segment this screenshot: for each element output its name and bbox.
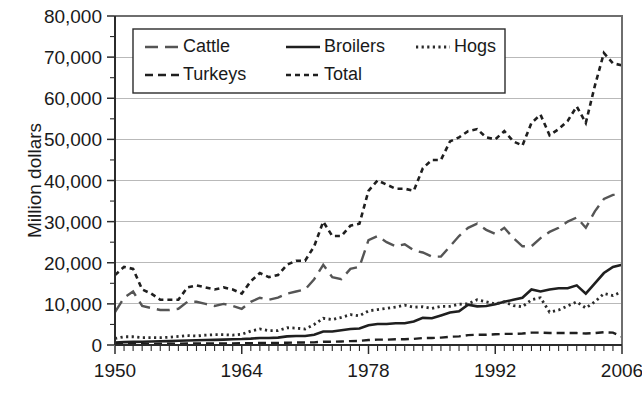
x-tick-label: 1978 <box>347 360 389 381</box>
x-tick-label: 2006 <box>601 360 642 381</box>
x-tick-label: 1992 <box>474 360 516 381</box>
y-tick-label: 50,000 <box>44 129 102 150</box>
legend-label-hogs: Hogs <box>454 36 496 56</box>
legend-label-total: Total <box>324 64 362 84</box>
chart-legend: CattleBroilersHogsTurkeysTotal <box>133 29 505 93</box>
line-chart: 010,00020,00030,00040,00050,00060,00070,… <box>0 0 642 397</box>
x-tick-label: 1950 <box>94 360 136 381</box>
y-axis-ticks <box>107 16 115 345</box>
legend-label-cattle: Cattle <box>183 36 230 56</box>
x-axis-ticks <box>115 345 622 354</box>
y-tick-label: 70,000 <box>44 47 102 68</box>
data-series-group <box>115 53 622 344</box>
series-line-cattle <box>115 195 622 312</box>
x-tick-label: 1964 <box>221 360 264 381</box>
y-tick-label: 80,000 <box>44 6 102 27</box>
chart-figure: 010,00020,00030,00040,00050,00060,00070,… <box>0 0 642 397</box>
y-tick-label: 20,000 <box>44 253 102 274</box>
series-line-hogs <box>115 292 622 339</box>
y-tick-label: 0 <box>91 335 102 356</box>
legend-label-broilers: Broilers <box>324 36 385 56</box>
x-axis-tick-labels: 19501964197819922006 <box>94 360 642 381</box>
y-tick-label: 30,000 <box>44 212 102 233</box>
y-axis-title: Million dollars <box>24 123 45 238</box>
y-tick-label: 60,000 <box>44 88 102 109</box>
legend-label-turkeys: Turkeys <box>183 64 246 84</box>
y-axis-tick-labels: 010,00020,00030,00040,00050,00060,00070,… <box>44 6 102 356</box>
series-line-turkeys <box>115 332 622 344</box>
y-tick-label: 10,000 <box>44 294 102 315</box>
y-tick-label: 40,000 <box>44 171 102 192</box>
